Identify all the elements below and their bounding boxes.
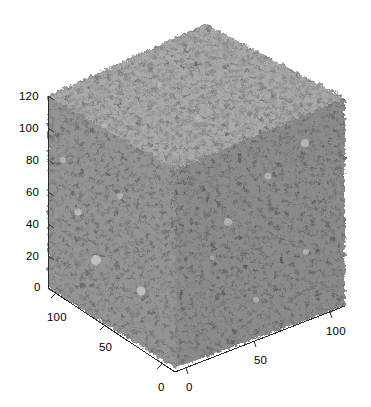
volume-svg <box>0 0 371 407</box>
y-tick-label-0: 0 <box>186 381 193 393</box>
figure-canvas: 120 100 80 60 40 20 0 100 50 0 0 50 100 <box>0 0 371 407</box>
z-tick-label-120: 120 <box>19 90 39 102</box>
z-tick-label-60: 60 <box>26 186 39 198</box>
y-tick-label-100: 100 <box>326 325 346 337</box>
z-tick-label-20: 20 <box>26 250 39 262</box>
y-tick-label-50: 50 <box>254 354 267 366</box>
z-tick-label-80: 80 <box>26 154 39 166</box>
z-tick-label-100: 100 <box>19 122 39 134</box>
z-tick-label-40: 40 <box>26 218 39 230</box>
z-tick-label-0: 0 <box>34 281 41 293</box>
x-tick-label-0: 0 <box>158 381 165 393</box>
x-tick-label-100: 100 <box>47 311 67 323</box>
x-tick-label-50: 50 <box>99 341 112 353</box>
isosurface-volume <box>0 0 371 407</box>
